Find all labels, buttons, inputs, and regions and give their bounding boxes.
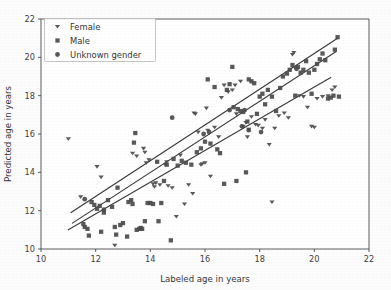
chart-figure: 10121416182022 10121416182022 Labeled ag… <box>0 0 391 290</box>
square-marker <box>232 105 236 109</box>
square-marker <box>285 71 289 75</box>
square-marker <box>335 35 339 39</box>
square-marker <box>184 161 188 165</box>
square-marker <box>304 59 308 63</box>
square-marker <box>165 163 169 167</box>
square-marker <box>110 205 114 209</box>
square-marker <box>121 221 125 225</box>
square-marker <box>266 88 270 92</box>
square-marker <box>130 202 134 206</box>
square-marker <box>143 219 147 223</box>
square-marker <box>171 157 175 161</box>
circle-marker <box>101 207 106 212</box>
square-marker <box>151 202 155 206</box>
circle-marker <box>246 128 251 133</box>
square-marker <box>159 201 163 205</box>
square-marker <box>333 48 337 52</box>
circle-icon <box>55 52 60 57</box>
square-marker <box>115 186 119 190</box>
square-marker <box>245 119 249 123</box>
circle-marker <box>170 115 175 120</box>
legend-label-unknown-gender: Unknown gender <box>70 50 142 60</box>
square-marker <box>263 102 267 106</box>
square-marker <box>270 94 274 98</box>
square-marker <box>132 140 136 144</box>
square-marker <box>129 198 133 202</box>
y-tick-label: 20 <box>25 52 35 62</box>
square-marker <box>230 65 234 69</box>
square-marker <box>98 204 102 208</box>
y-tick-label: 18 <box>25 91 35 101</box>
circle-marker <box>207 130 212 135</box>
circle-marker <box>201 132 206 137</box>
square-marker <box>140 227 144 231</box>
x-tick-label: 20 <box>309 254 319 264</box>
square-marker <box>281 74 285 78</box>
square-marker <box>301 68 305 72</box>
y-tick-label: 14 <box>25 167 35 177</box>
legend-label-female: Female <box>70 22 100 32</box>
square-marker <box>218 151 222 155</box>
x-tick-label: 12 <box>90 254 100 264</box>
square-marker <box>113 225 117 229</box>
square-marker <box>125 234 129 238</box>
square-marker <box>180 159 184 163</box>
y-tick-label: 12 <box>25 206 35 216</box>
square-marker <box>225 88 229 92</box>
scatter-plot-canvas: 10121416182022 10121416182022 Labeled ag… <box>0 0 391 290</box>
square-marker <box>215 147 219 151</box>
square-marker <box>293 94 297 98</box>
square-marker <box>309 92 313 96</box>
square-marker <box>307 71 311 75</box>
square-marker <box>99 230 103 234</box>
square-marker <box>337 94 341 98</box>
square-marker <box>206 77 210 81</box>
square-marker <box>244 170 248 174</box>
circle-marker <box>242 108 247 113</box>
square-marker <box>278 86 282 90</box>
square-marker <box>203 140 207 144</box>
square-marker <box>106 198 110 202</box>
circle-marker <box>82 197 87 202</box>
x-tick-label: 22 <box>364 254 374 264</box>
square-marker <box>290 63 294 67</box>
square-marker <box>189 163 193 167</box>
x-tick-label: 16 <box>200 254 210 264</box>
square-icon <box>55 38 59 42</box>
square-marker <box>234 179 238 183</box>
square-marker <box>252 81 256 85</box>
square-marker <box>162 179 166 183</box>
circle-marker <box>259 130 264 135</box>
square-marker <box>331 94 335 98</box>
square-marker <box>85 227 89 231</box>
square-marker <box>288 68 292 72</box>
square-marker <box>227 82 231 86</box>
y-axis-title: Predicted age in years <box>3 85 13 182</box>
square-marker <box>255 112 259 116</box>
y-tick-label: 10 <box>25 244 35 254</box>
square-marker <box>318 57 322 61</box>
square-marker <box>156 219 160 223</box>
square-marker <box>315 62 319 66</box>
square-marker <box>320 51 324 55</box>
chart-legend[interactable]: Female Male Unknown gender <box>45 19 156 62</box>
legend-label-male: Male <box>70 36 90 46</box>
square-marker <box>92 203 96 207</box>
square-marker <box>312 68 316 72</box>
square-marker <box>323 58 327 62</box>
square-marker <box>195 150 199 154</box>
square-marker <box>176 163 180 167</box>
circle-marker <box>227 108 232 113</box>
square-marker <box>260 92 264 96</box>
square-marker <box>155 160 159 164</box>
x-axis-title: Labeled age in years <box>160 274 250 284</box>
y-tick-label: 16 <box>25 129 35 139</box>
square-marker <box>133 131 137 135</box>
circle-marker <box>240 124 245 129</box>
square-marker <box>212 85 216 89</box>
square-marker <box>199 146 203 150</box>
square-marker <box>208 141 212 145</box>
circle-marker <box>294 66 299 71</box>
square-marker <box>222 182 226 186</box>
square-marker <box>169 238 173 242</box>
